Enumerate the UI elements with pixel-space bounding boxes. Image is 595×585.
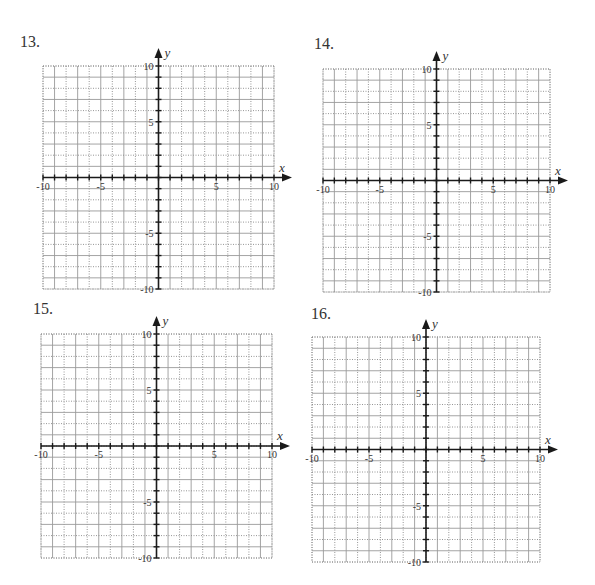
- x-tick-label: 5: [212, 449, 217, 460]
- y-tick-label: 5: [416, 388, 421, 399]
- x-tick-label: -5: [95, 449, 103, 460]
- x-axis-label: x: [554, 163, 561, 178]
- x-tick-label: -5: [376, 184, 384, 195]
- axes: -10-5510105-5-10xy: [34, 313, 290, 564]
- y-tick-label: 10: [144, 61, 154, 72]
- axes: -10-5510105-5-10xy: [305, 316, 558, 568]
- y-axis-label: y: [430, 316, 438, 331]
- x-tick-label: 5: [481, 453, 486, 464]
- problem-number-16: 16.: [311, 305, 331, 323]
- x-tick-label: 5: [491, 184, 496, 195]
- x-tick-label: -10: [316, 184, 329, 195]
- y-axis-label: y: [163, 45, 171, 60]
- y-tick-label: -5: [145, 228, 153, 239]
- x-tick-label: 5: [214, 181, 219, 192]
- x-axis-label: x: [276, 428, 283, 443]
- problem-number-14: 14.: [314, 35, 334, 53]
- y-axis-arrow-icon: [422, 319, 430, 329]
- x-tick-label: 10: [267, 449, 277, 460]
- problem-number-15: 15.: [33, 300, 53, 318]
- y-tick-label: 5: [149, 117, 154, 128]
- y-tick-label: 5: [427, 120, 432, 131]
- y-axis-label: y: [441, 48, 449, 63]
- y-tick-label: 10: [142, 329, 152, 340]
- axes: -10-5510105-5-10xy: [316, 48, 568, 298]
- y-tick-label: -10: [408, 557, 421, 568]
- x-axis-label: x: [544, 432, 551, 447]
- coordinate-grid-16[interactable]: -10-5510105-5-10xy: [312, 337, 540, 562]
- x-axis-arrow-icon: [558, 177, 568, 185]
- y-tick-label: 10: [411, 332, 421, 343]
- y-axis-label: y: [161, 313, 169, 328]
- problem-number-13: 13.: [20, 33, 40, 51]
- x-tick-label: -5: [97, 181, 105, 192]
- x-tick-label: -10: [36, 181, 49, 192]
- y-tick-label: -5: [423, 231, 431, 242]
- axes: -10-5510105-5-10xy: [36, 45, 292, 295]
- x-tick-label: -5: [365, 453, 373, 464]
- y-axis-arrow-icon: [433, 51, 441, 61]
- x-tick-label: -10: [305, 453, 318, 464]
- y-tick-label: -10: [138, 553, 151, 564]
- y-tick-label: -5: [413, 501, 421, 512]
- x-axis-arrow-icon: [282, 174, 292, 182]
- coordinate-grid-14[interactable]: -10-5510105-5-10xy: [323, 69, 550, 292]
- y-tick-label: -10: [418, 287, 431, 298]
- y-axis-arrow-icon: [155, 48, 163, 58]
- x-axis-label: x: [278, 160, 285, 175]
- x-tick-label: 10: [269, 181, 279, 192]
- x-axis-arrow-icon: [280, 442, 290, 450]
- y-tick-label: 10: [422, 64, 432, 75]
- y-tick-label: 5: [147, 385, 152, 396]
- coordinate-grid-15[interactable]: -10-5510105-5-10xy: [41, 334, 272, 558]
- y-tick-label: -10: [140, 284, 153, 295]
- y-axis-arrow-icon: [153, 316, 161, 326]
- coordinate-grid-13[interactable]: -10-5510105-5-10xy: [43, 66, 274, 289]
- x-tick-label: 10: [545, 184, 555, 195]
- x-tick-label: 10: [535, 453, 545, 464]
- x-axis-arrow-icon: [548, 446, 558, 454]
- x-tick-label: -10: [34, 449, 47, 460]
- y-tick-label: -5: [143, 497, 151, 508]
